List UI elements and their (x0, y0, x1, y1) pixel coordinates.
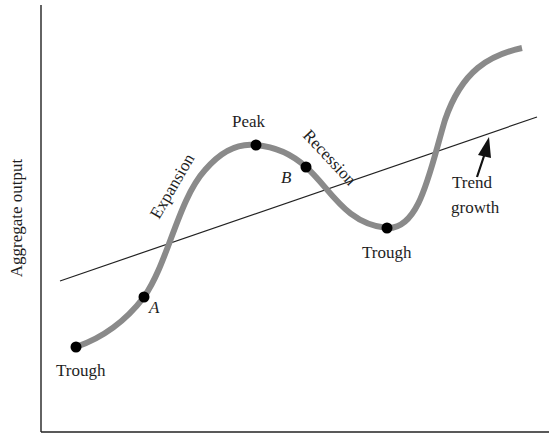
peak-label: Peak (232, 112, 266, 131)
trough-point-1 (71, 342, 82, 353)
business-cycle-diagram: Aggregate output Trough A Peak B Trough … (0, 0, 549, 444)
y-axis-label: Aggregate output (7, 158, 26, 277)
recession-label: Recession (299, 126, 360, 190)
trend-label-line2: growth (451, 198, 500, 217)
trough-label-2: Trough (362, 243, 412, 262)
trough-label-1: Trough (56, 361, 106, 380)
point-b (301, 162, 312, 173)
trend-label-line1: Trend (452, 173, 492, 192)
peak-point (251, 140, 262, 151)
point-b-label: B (281, 168, 292, 187)
point-a-label: A (148, 298, 160, 317)
point-a (139, 292, 150, 303)
trend-arrow-head (478, 137, 491, 158)
trough-point-2 (382, 223, 393, 234)
